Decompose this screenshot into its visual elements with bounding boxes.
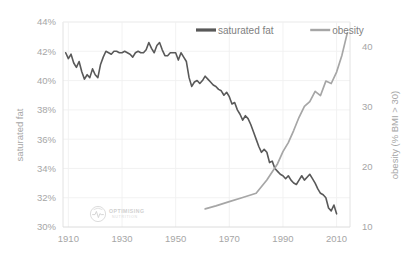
x-axis-tick-label: 1950 — [165, 233, 186, 244]
x-axis-tick-label: 1910 — [58, 233, 79, 244]
y-axis-right-title: obesity (% BMI > 30) — [389, 91, 400, 179]
y-axis-left-tick-label: 42% — [37, 46, 57, 57]
y-axis-left-tick-label: 44% — [37, 16, 57, 27]
y-axis-left-title: saturated fat — [14, 108, 25, 161]
y-axis-right-tick-label: 40 — [362, 41, 373, 52]
y-axis-left-tick-label: 38% — [37, 104, 57, 115]
watermark-line-2: NUTRITION — [112, 215, 138, 219]
y-axis-right-tick-label: 20 — [362, 161, 373, 172]
dual-axis-line-chart: 30%32%34%36%38%40%42%44% 10203040 191019… — [0, 0, 414, 271]
x-axis-tick-label: 1970 — [219, 233, 240, 244]
y-axis-left-tick-label: 40% — [37, 75, 57, 86]
legend-label-obesity: obesity — [332, 25, 364, 36]
y-axis-left-tick-label: 32% — [37, 192, 57, 203]
chart-background — [0, 0, 414, 271]
y-axis-right-tick-label: 30 — [362, 101, 373, 112]
chart-container: 30%32%34%36%38%40%42%44% 10203040 191019… — [0, 0, 414, 271]
x-axis-tick-label: 2010 — [326, 233, 347, 244]
y-axis-left-tick-label: 34% — [37, 163, 57, 174]
legend-label-saturated-fat: saturated fat — [218, 25, 274, 36]
y-axis-left-tick-label: 30% — [37, 221, 57, 232]
x-axis-tick-label: 1990 — [272, 233, 293, 244]
x-axis-tick-label: 1930 — [111, 233, 132, 244]
watermark-line-1: OPTIMISING — [109, 208, 145, 214]
y-axis-left-tick-label: 36% — [37, 134, 57, 145]
y-axis-right-tick-label: 10 — [362, 221, 373, 232]
